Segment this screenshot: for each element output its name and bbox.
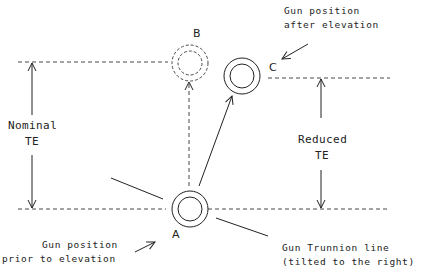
after-elevation-label-2: after elevation [284, 19, 379, 30]
prior-elevation-label-2: prior to elevation [2, 253, 116, 264]
reduced-label-1: Reduced [298, 133, 347, 146]
point-b-icon [172, 45, 208, 81]
trunnion-label-1: Gun Trunnion line [282, 242, 389, 253]
reduced-label-2: TE [315, 149, 329, 162]
point-a-icon [172, 191, 208, 227]
nominal-label-1: Nominal [8, 119, 57, 132]
prior-elevation-pointer [135, 242, 155, 252]
point-a-label: A [172, 228, 180, 241]
after-elevation-pointer [282, 44, 308, 59]
trunnion-elevation-diagram: Nominal TE Reduced TE B C A Gun position… [0, 0, 432, 273]
point-b-label: B [193, 27, 201, 40]
actual-elevation-arrow [199, 96, 232, 186]
point-c-icon [224, 58, 260, 94]
nominal-label-2: TE [25, 135, 39, 148]
after-elevation-label-1: Gun position [284, 5, 360, 16]
prior-elevation-label-1: Gun position [42, 239, 118, 250]
point-c-label: C [269, 61, 277, 74]
trunnion-label-2: (tilted to the right) [282, 256, 415, 267]
